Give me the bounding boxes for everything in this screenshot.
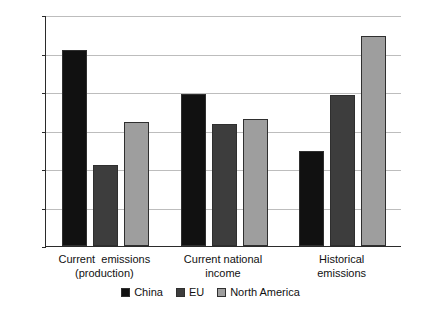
legend-swatch-icon [176,288,185,297]
legend-label: EU [189,286,204,298]
y-axis-tick-mark [42,55,46,56]
y-axis-tick-mark [42,247,46,248]
chart-legend: ChinaEUNorth America [0,286,421,298]
legend-label: North America [230,286,300,298]
x-axis-category-label-line: Historical [267,252,417,266]
gridline [46,93,401,94]
legend-item: EU [176,286,204,298]
bar [243,119,268,246]
gridline [46,55,401,56]
y-axis-tick-mark [42,209,46,210]
bar [93,165,118,246]
bar-chart-figure: Share in world total (%) 051015202530 Cu… [0,0,421,314]
bar [62,50,87,246]
x-axis-category-label-line: emissions [267,266,417,280]
legend-item: China [121,286,163,298]
bar [181,94,206,246]
y-axis-tick-mark [42,132,46,133]
bar [212,124,237,246]
x-axis-category-label: Historicalemissions [267,252,417,280]
legend-swatch-icon [121,288,130,297]
y-axis-tick-mark [42,170,46,171]
bar [299,151,324,246]
bar [124,122,149,246]
bar [330,95,355,246]
y-axis-tick-mark [42,16,46,17]
legend-item: North America [217,286,300,298]
gridline [46,16,401,17]
legend-swatch-icon [217,288,226,297]
plot-area [45,16,401,247]
y-axis-tick-mark [42,93,46,94]
legend-label: China [134,286,163,298]
bar [361,36,386,246]
